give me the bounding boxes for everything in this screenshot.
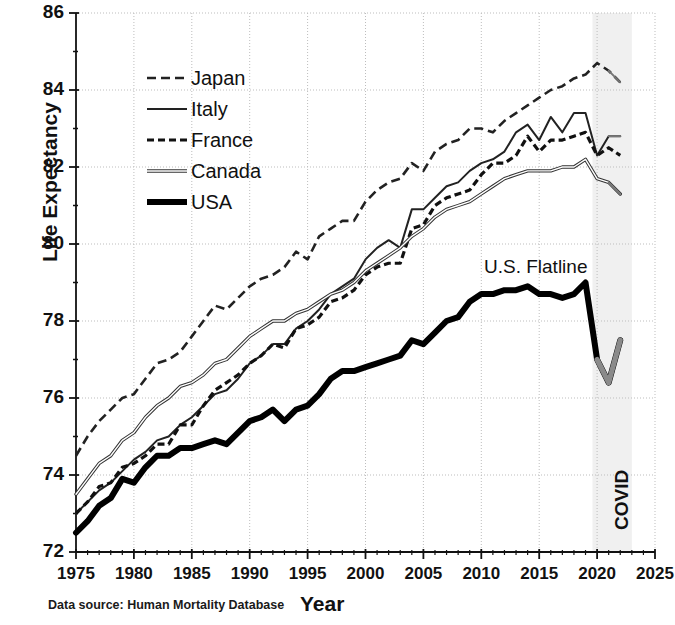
x-tick-label: 2025 bbox=[625, 564, 675, 584]
y-tick-label: 82 bbox=[24, 155, 64, 177]
legend-item-label: Japan bbox=[191, 68, 246, 88]
y-tick-label: 86 bbox=[24, 1, 64, 23]
legend-item-label: France bbox=[191, 130, 253, 150]
legend-item-canada[interactable]: Canada bbox=[146, 155, 261, 186]
x-tick-label: 1995 bbox=[278, 564, 338, 584]
x-tick-label: 2005 bbox=[393, 564, 453, 584]
y-tick-label: 80 bbox=[24, 232, 64, 254]
source-caption: Data source: Human Mortality Database bbox=[48, 598, 284, 612]
y-tick-label: 76 bbox=[24, 386, 64, 408]
x-tick-label: 2020 bbox=[567, 564, 627, 584]
legend-item-france[interactable]: France bbox=[146, 124, 261, 155]
legend-item-italy[interactable]: Italy bbox=[146, 93, 261, 124]
legend-swatch-icon bbox=[146, 71, 188, 85]
x-tick-label: 2000 bbox=[336, 564, 396, 584]
x-tick-label: 1980 bbox=[104, 564, 164, 584]
legend-item-japan[interactable]: Japan bbox=[146, 62, 261, 93]
legend-swatch-icon bbox=[146, 195, 188, 209]
legend-item-label: Italy bbox=[191, 99, 228, 119]
x-tick-label: 2015 bbox=[509, 564, 569, 584]
life-expectancy-chart: Life Expectancy Year Data source: Human … bbox=[0, 0, 675, 625]
chart-legend: JapanItalyFranceCanadaUSA bbox=[146, 62, 261, 217]
x-axis-title: Year bbox=[300, 592, 344, 616]
legend-item-label: Canada bbox=[191, 161, 261, 181]
annotation-us-flatline: U.S. Flatline bbox=[484, 256, 587, 278]
y-tick-label: 72 bbox=[24, 540, 64, 562]
annotation-covid: COVID bbox=[611, 470, 633, 530]
y-axis-title: Life Expectancy bbox=[38, 72, 62, 292]
x-tick-label: 1975 bbox=[46, 564, 106, 584]
legend-item-usa[interactable]: USA bbox=[146, 186, 261, 217]
x-tick-label: 1985 bbox=[162, 564, 222, 584]
chart-plot-area bbox=[0, 0, 675, 625]
x-tick-label: 1990 bbox=[220, 564, 280, 584]
y-tick-label: 74 bbox=[24, 463, 64, 485]
legend-item-label: USA bbox=[191, 192, 232, 212]
legend-swatch-icon bbox=[146, 102, 188, 116]
y-tick-label: 78 bbox=[24, 309, 64, 331]
legend-swatch-icon bbox=[146, 164, 188, 178]
y-tick-label: 84 bbox=[24, 78, 64, 100]
legend-swatch-icon bbox=[146, 133, 188, 147]
x-tick-label: 2010 bbox=[451, 564, 511, 584]
